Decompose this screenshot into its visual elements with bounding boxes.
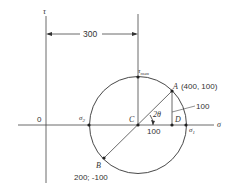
point-D-label: D	[174, 115, 181, 124]
segment-AD-label: 100	[196, 102, 210, 111]
dimension-arrow-left	[46, 32, 52, 36]
point-sigma1	[184, 123, 187, 126]
angle-label: 2θ	[153, 110, 161, 119]
sigma2-label: σ2	[79, 114, 85, 123]
point-B-label: B	[96, 161, 101, 170]
point-tau-max	[136, 75, 139, 78]
dimension-label: 300	[83, 29, 97, 39]
dimension-arrow-right	[132, 32, 138, 36]
tau-axis-label: τ	[43, 7, 47, 16]
point-C	[136, 123, 139, 126]
point-B-coords: 200; -100	[74, 173, 108, 182]
sigma1-label: σ1	[189, 126, 195, 135]
point-D	[170, 123, 173, 126]
tau-max-label: τmax	[138, 67, 150, 76]
point-C-label: C	[129, 115, 135, 124]
leader-line-AD	[172, 106, 195, 112]
point-sigma2	[87, 123, 90, 126]
point-A-label: A(400, 100)	[172, 82, 218, 91]
angle-arrow	[151, 120, 155, 125]
point-B	[102, 156, 105, 159]
mohr-circle-diagram: τ σ 0 300 τmax A(400, 100) B 200; -100 C…	[0, 0, 239, 194]
segment-CD-label: 100	[147, 127, 161, 136]
sigma-axis-label: σ	[217, 120, 222, 129]
origin-label: 0	[37, 115, 42, 124]
